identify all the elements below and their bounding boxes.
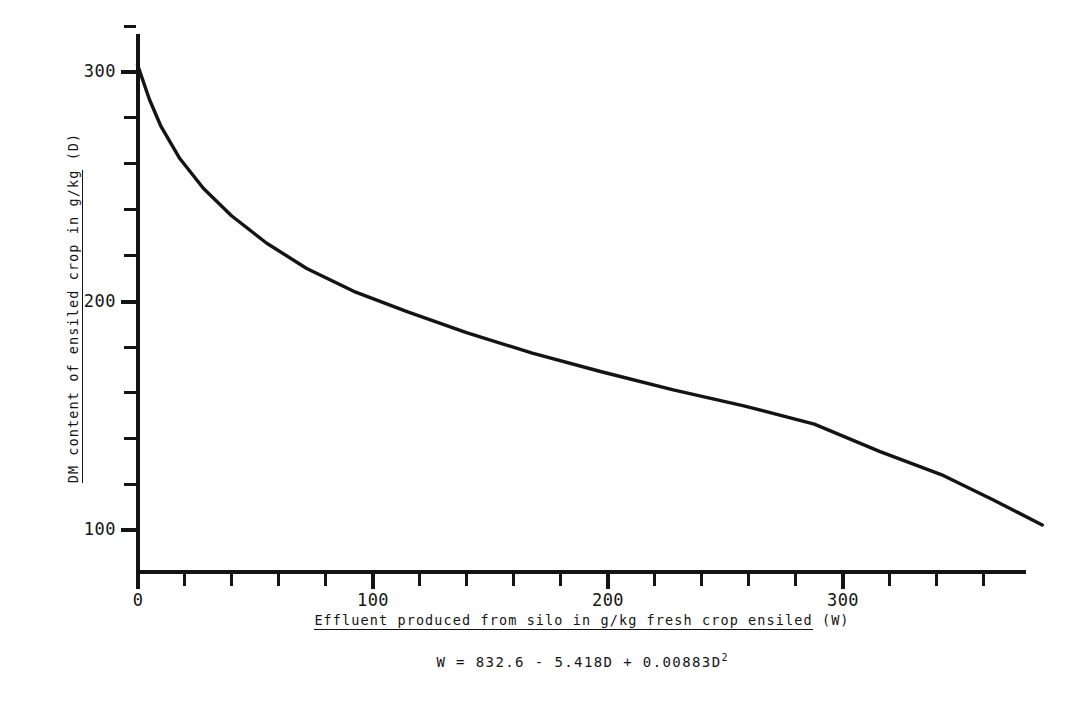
y-minor-tick-260 <box>124 162 136 165</box>
y-minor-tick-120 <box>124 483 136 486</box>
y-minor-tick-220 <box>124 254 136 257</box>
x-tick-label-100: 100 <box>343 590 403 610</box>
y-minor-tick-140 <box>124 437 136 440</box>
y-axis-title: DM content of ensiled crop in g/kg (D) <box>65 98 81 518</box>
x-minor-tick-280 <box>794 574 797 586</box>
x-minor-tick-60 <box>277 574 280 586</box>
y-tick-100 <box>121 528 136 532</box>
y-tick-label-100: 100 <box>56 519 116 539</box>
chart-figure: 300 200 100 0 100 200 300 DM content of … <box>0 0 1073 702</box>
x-axis-title-underlined: Effluent produced from silo in g/kg fres… <box>314 612 812 630</box>
x-tick-label-300: 300 <box>813 590 873 610</box>
x-axis-line <box>136 570 1026 574</box>
x-minor-tick-40 <box>230 574 233 586</box>
x-minor-tick-20 <box>183 574 186 586</box>
y-minor-tick-280 <box>124 116 136 119</box>
x-minor-tick-340 <box>935 574 938 586</box>
x-minor-tick-120 <box>418 574 421 586</box>
x-minor-tick-260 <box>747 574 750 586</box>
x-tick-200 <box>606 574 610 589</box>
x-minor-tick-180 <box>559 574 562 586</box>
y-tick-200 <box>121 300 136 304</box>
x-minor-tick-160 <box>512 574 515 586</box>
x-minor-tick-320 <box>888 574 891 586</box>
y-minor-tick-180 <box>124 346 136 349</box>
equation-exponent: 2 <box>722 652 728 663</box>
x-minor-tick-220 <box>653 574 656 586</box>
y-tick-label-300: 300 <box>56 61 116 81</box>
x-minor-tick-360 <box>982 574 985 586</box>
y-axis-line <box>136 34 140 574</box>
x-minor-tick-140 <box>465 574 468 586</box>
x-tick-label-0: 0 <box>108 590 168 610</box>
y-minor-tick-160 <box>124 391 136 394</box>
equation-body: W = 832.6 - 5.418D + 0.00883D <box>436 654 721 670</box>
x-axis-title-suffix: (W) <box>813 612 850 628</box>
x-minor-tick-80 <box>324 574 327 586</box>
y-minor-tick-320 <box>124 25 136 28</box>
x-axis-title: Effluent produced from silo in g/kg fres… <box>137 612 1027 628</box>
y-axis-title-suffix: (D) <box>65 133 81 170</box>
equation-caption: W = 832.6 - 5.418D + 0.00883D2 <box>137 652 1027 670</box>
y-axis-title-underlined: DM content of ensiled crop in g/kg <box>65 170 83 484</box>
y-tick-300 <box>121 70 136 74</box>
y-minor-tick-240 <box>124 208 136 211</box>
x-tick-label-200: 200 <box>578 590 638 610</box>
x-tick-100 <box>371 574 375 589</box>
x-minor-tick-240 <box>700 574 703 586</box>
x-tick-0 <box>136 574 140 589</box>
x-tick-300 <box>841 574 845 589</box>
